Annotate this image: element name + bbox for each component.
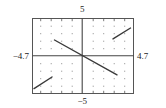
plot-area: 5 −5 −4.7 4.7	[0, 0, 166, 108]
ymin-label: −5	[77, 96, 87, 106]
graphing-calculator-viewing-window: 5 −5 −4.7 4.7	[0, 0, 166, 108]
xmax-label: 4.7	[137, 51, 149, 61]
ymax-label: 5	[80, 4, 85, 14]
xmin-label: −4.7	[13, 51, 30, 61]
